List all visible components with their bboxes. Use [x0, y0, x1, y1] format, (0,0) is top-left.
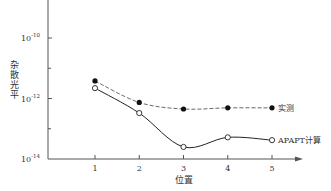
legend: 实测APAPT计算 [277, 103, 321, 145]
stray-light-chart: 10-1010-1210-14 12345 杂散光平 位置 实测APAPT计算 [0, 0, 331, 191]
filled-circle-marker-icon [269, 105, 274, 110]
y-tick-label: 10-14 [21, 153, 41, 164]
x-axis-arrow-icon [295, 157, 303, 162]
open-circle-marker-icon [181, 144, 186, 149]
x-ticks: 12345 [92, 155, 274, 173]
legend-apapt: APAPT计算 [277, 135, 321, 145]
x-axis-title: 位置 [175, 174, 193, 185]
filled-circle-marker-icon [92, 78, 97, 83]
y-ticks: 10-1010-1210-14 [21, 32, 52, 164]
open-circle-marker-icon [92, 86, 97, 91]
y-tick-label: 10-12 [21, 93, 40, 104]
legend-measured: 实测 [278, 103, 294, 113]
filled-circle-marker-icon [137, 100, 142, 105]
series-group [92, 78, 274, 149]
x-tick-label: 3 [181, 164, 186, 173]
filled-circle-marker-icon [181, 106, 186, 111]
series-measured [92, 78, 274, 111]
open-circle-marker-icon [269, 138, 274, 143]
series-line [95, 81, 272, 109]
series-line [95, 88, 272, 148]
series-apapt [92, 86, 274, 150]
y-axis-title: 杂散光平 [9, 60, 19, 100]
x-tick-label: 5 [269, 164, 274, 173]
x-tick-label: 4 [225, 164, 230, 173]
filled-circle-marker-icon [225, 105, 230, 110]
x-tick-label: 2 [137, 164, 142, 173]
y-tick-label: 10-10 [21, 32, 41, 43]
open-circle-marker-icon [137, 110, 142, 115]
open-circle-marker-icon [225, 135, 230, 140]
x-tick-label: 1 [92, 164, 97, 173]
axes [48, 0, 303, 162]
